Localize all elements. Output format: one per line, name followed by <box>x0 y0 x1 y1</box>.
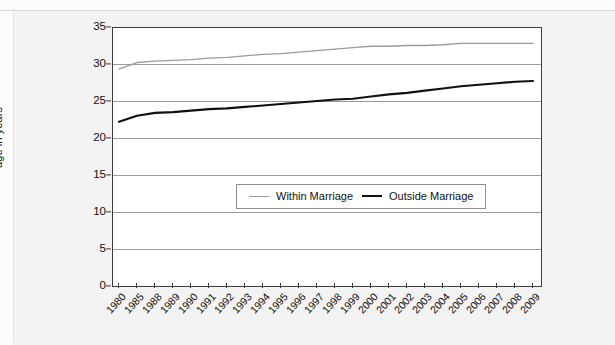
series-line <box>119 43 533 69</box>
x-tick-mark <box>532 283 533 288</box>
chart-legend: Within Marriage Outside Marriage <box>236 184 486 209</box>
chart-root: age in years 05101520253035 198019851988… <box>0 0 615 345</box>
y-tick-mark <box>106 63 111 64</box>
legend-swatch-outside-marriage <box>362 195 382 197</box>
y-tick-mark <box>106 26 111 27</box>
x-tick-mark <box>460 283 461 288</box>
y-tick-mark <box>106 174 111 175</box>
x-tick-mark <box>388 283 389 288</box>
y-tick-label: 25 <box>60 95 106 107</box>
x-tick-mark <box>496 283 497 288</box>
y-tick-label: 35 <box>60 21 106 33</box>
legend-label-within-marriage: Within Marriage <box>276 190 353 202</box>
x-tick-mark <box>280 283 281 288</box>
legend-item-within-marriage: Within Marriage <box>249 190 353 202</box>
x-tick-mark <box>154 283 155 288</box>
x-tick-mark <box>370 283 371 288</box>
x-tick-mark <box>334 283 335 288</box>
x-tick-mark <box>478 283 479 288</box>
series-line <box>119 81 533 122</box>
x-tick-mark <box>172 283 173 288</box>
x-tick-mark <box>316 283 317 288</box>
y-tick-mark <box>106 285 111 286</box>
x-tick-mark <box>406 283 407 288</box>
y-tick-label: 0 <box>60 280 106 292</box>
x-tick-mark <box>226 283 227 288</box>
x-axis-ticks: 1980198519881989199019911992199319941995… <box>112 288 541 343</box>
x-tick-mark <box>190 283 191 288</box>
frame-top-border <box>0 10 615 11</box>
x-tick-mark <box>244 283 245 288</box>
y-tick-mark <box>106 248 111 249</box>
y-tick-mark <box>106 137 111 138</box>
y-axis-title: age in years <box>0 107 4 168</box>
plot-area <box>112 27 542 287</box>
legend-label-outside-marriage: Outside Marriage <box>389 190 473 202</box>
series-lines <box>113 27 541 286</box>
y-tick-mark <box>106 211 111 212</box>
x-tick-mark <box>262 283 263 288</box>
y-axis-ticks: 05101520253035 <box>58 27 106 286</box>
x-tick-mark <box>136 283 137 288</box>
x-tick-mark <box>514 283 515 288</box>
x-tick-mark <box>442 283 443 288</box>
frame-left-border <box>13 10 14 342</box>
y-tick-label: 20 <box>60 132 106 144</box>
x-tick-mark <box>298 283 299 288</box>
legend-item-outside-marriage: Outside Marriage <box>362 190 473 202</box>
y-tick-label: 5 <box>60 243 106 255</box>
plot-top-border <box>112 27 541 28</box>
legend-swatch-within-marriage <box>249 196 269 197</box>
x-tick-mark <box>424 283 425 288</box>
x-tick-mark <box>352 283 353 288</box>
x-tick-mark <box>208 283 209 288</box>
y-tick-label: 10 <box>60 206 106 218</box>
y-tick-mark <box>106 100 111 101</box>
y-tick-label: 15 <box>60 169 106 181</box>
y-tick-label: 30 <box>60 58 106 70</box>
x-tick-mark <box>118 283 119 288</box>
